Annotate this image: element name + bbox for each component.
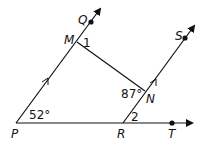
label-r: R [117,128,125,140]
point-s [182,35,187,40]
label-s: S [175,30,183,42]
label-angle-2: 2 [131,111,139,123]
point-t [169,120,174,125]
ray-rs [123,26,194,123]
label-angle-n: 87° [121,88,142,100]
diagram-lines [0,0,207,148]
label-p: P [11,128,18,140]
label-angle-1: 1 [83,37,91,49]
label-m: M [64,34,74,46]
label-angle-p: 52° [29,109,50,121]
ray-pq [16,9,100,123]
label-q: Q [78,14,87,26]
point-q [88,19,93,24]
geometry-diagram: Q M 1 S 87° N 52° 2 P R T [0,0,207,148]
label-t: T [168,128,175,140]
label-n: N [146,93,155,105]
